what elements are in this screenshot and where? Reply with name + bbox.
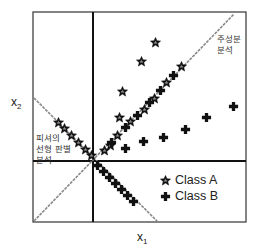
legend-item-class-b: Class B xyxy=(160,188,218,204)
legend-item-class-a: Class A xyxy=(160,172,218,188)
y-axis-label: x2 xyxy=(11,95,21,111)
cross-icon xyxy=(160,191,171,202)
lda-label: 피셔의선형 판별분석 xyxy=(36,133,71,166)
star-icon xyxy=(160,175,171,186)
legend: Class A Class B xyxy=(160,172,218,204)
x-axis-label: x1 xyxy=(137,230,147,246)
pca-label: 주성분분석 xyxy=(217,34,241,56)
class-a-points xyxy=(53,37,186,160)
